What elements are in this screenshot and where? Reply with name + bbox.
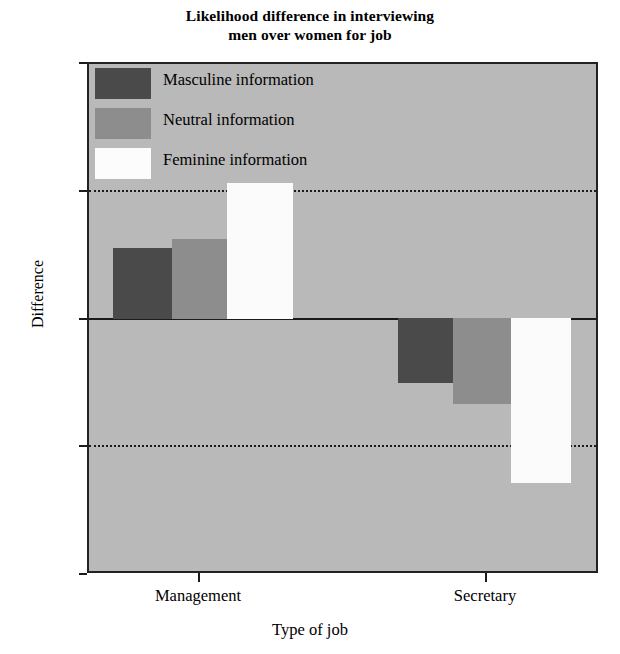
x-axis-label: Type of job	[0, 620, 620, 640]
bar-secretary-feminine	[511, 318, 571, 483]
y-tick-mark-0	[79, 318, 87, 320]
chart-title-line-2: men over women for job	[0, 25, 620, 44]
legend-swatch-feminine	[95, 148, 151, 179]
bar-chart-figure: Likelihood difference in interviewing me…	[0, 0, 620, 654]
chart-title-line-1: Likelihood difference in interviewing	[0, 6, 620, 25]
chart-legend: Masculine information Neutral informatio…	[95, 68, 395, 188]
legend-label-neutral: Neutral information	[163, 110, 295, 130]
legend-item-feminine: Feminine information	[95, 148, 395, 188]
gridline-positive-one	[89, 190, 596, 192]
legend-swatch-masculine	[95, 68, 151, 99]
y-tick-mark-1	[79, 190, 87, 192]
bar-management-feminine	[227, 183, 293, 319]
legend-swatch-neutral	[95, 108, 151, 139]
legend-item-masculine: Masculine information	[95, 68, 395, 108]
legend-label-masculine: Masculine information	[163, 70, 314, 90]
plot-area: Masculine information Neutral informatio…	[87, 62, 598, 573]
y-tick-mark-neg1	[79, 445, 87, 447]
bar-management-masculine	[113, 248, 172, 319]
bar-secretary-masculine	[398, 318, 453, 383]
legend-item-neutral: Neutral information	[95, 108, 395, 148]
x-tick-mark-management	[198, 573, 200, 582]
x-tick-label-secretary: Secretary	[395, 586, 575, 606]
y-tick-mark-neg2	[79, 573, 87, 575]
legend-label-feminine: Feminine information	[163, 150, 307, 170]
x-tick-label-management: Management	[108, 586, 288, 606]
y-tick-mark-2	[79, 62, 87, 64]
bar-management-neutral	[172, 239, 227, 319]
bar-secretary-neutral	[453, 318, 511, 404]
y-axis-label: Difference	[29, 234, 47, 354]
x-tick-mark-secretary	[485, 573, 487, 582]
chart-title: Likelihood difference in interviewing me…	[0, 6, 620, 44]
